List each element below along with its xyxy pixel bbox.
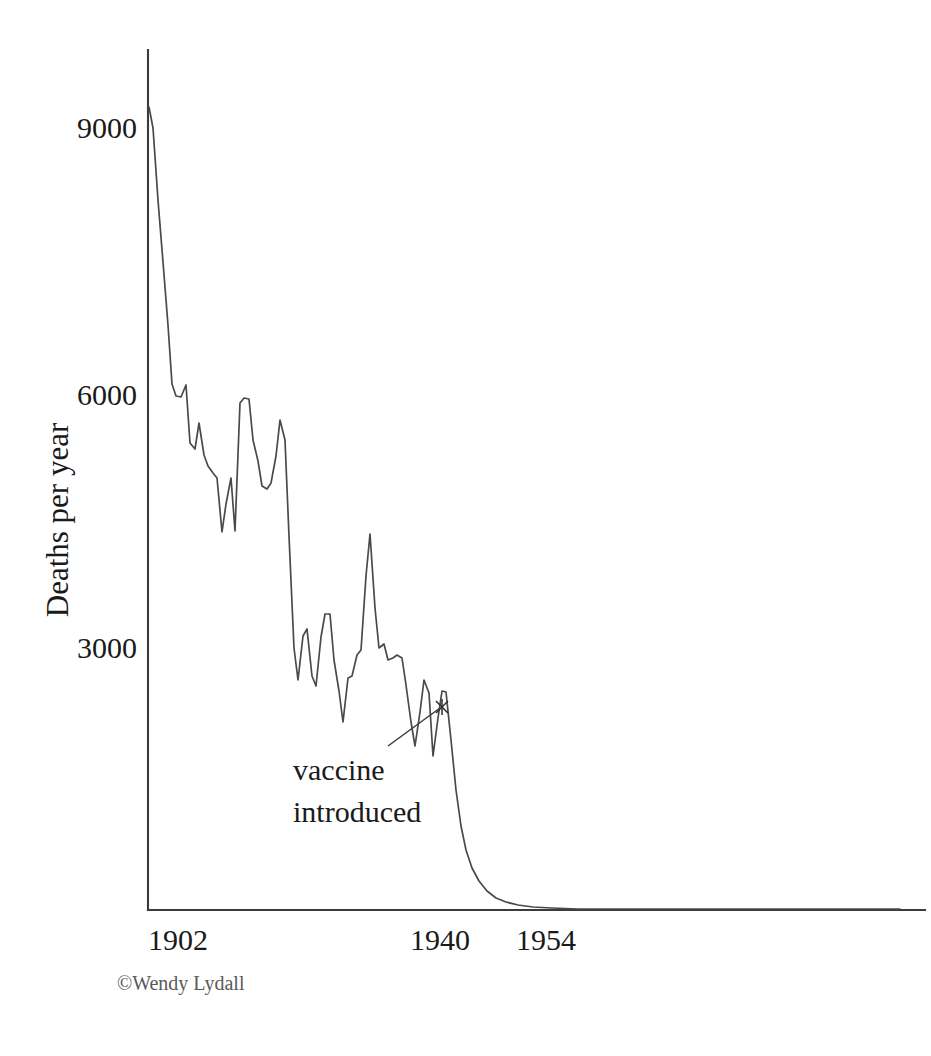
y-tick-label-6000: 6000 — [77, 378, 137, 411]
credit-line: ©Wendy Lydall — [117, 972, 245, 995]
chart-container: 9000 6000 3000 1902 1940 1954 Deaths per… — [0, 0, 931, 1056]
x-tick-label-1954: 1954 — [516, 923, 576, 956]
y-tick-label-9000: 9000 — [77, 111, 137, 144]
annotation-line-introduced: introduced — [293, 795, 421, 828]
epidemic-deaths-curve — [149, 107, 900, 909]
annotation-line-vaccine: vaccine — [293, 753, 385, 786]
line-chart-svg: 9000 6000 3000 1902 1940 1954 Deaths per… — [0, 0, 931, 1056]
x-tick-label-1940: 1940 — [410, 923, 470, 956]
x-tick-label-1902: 1902 — [148, 923, 208, 956]
y-axis-title: Deaths per year — [40, 422, 75, 617]
y-tick-label-3000: 3000 — [77, 631, 137, 664]
